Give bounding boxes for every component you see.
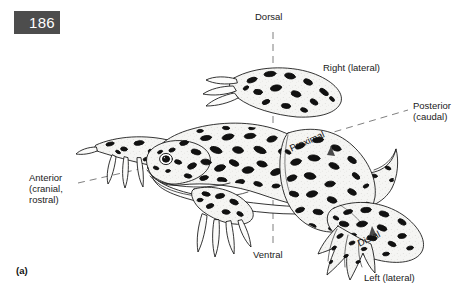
label-right-lateral: Right (lateral) <box>323 62 380 73</box>
frog-eye <box>160 153 173 164</box>
label-anterior-cranial-rostral: Anterior (cranial, rostral) <box>29 172 63 205</box>
frog-illustration <box>0 0 476 294</box>
label-posterior-caudal: Posterior (caudal) <box>413 100 451 122</box>
figure-letter: (a) <box>16 265 28 276</box>
label-dorsal: Dorsal <box>255 11 282 22</box>
page-number-badge: 186 <box>14 11 60 34</box>
label-left-lateral: Left (lateral) <box>364 272 415 283</box>
frog-body-group <box>76 68 424 280</box>
figure-panel: 186 Dorsal Ventral Right (lateral) Left … <box>0 0 476 294</box>
label-ventral: Ventral <box>253 249 283 260</box>
